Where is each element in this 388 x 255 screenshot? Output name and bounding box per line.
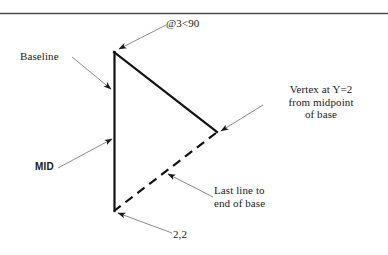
upper-edge <box>114 52 217 132</box>
diagram-canvas: @3<90 Baseline MID Vertex at Y=2 from mi… <box>0 0 388 255</box>
angle-spec-label: @3<90 <box>166 17 199 30</box>
start-point-leader <box>118 213 172 233</box>
last-line-note-leader <box>168 174 213 197</box>
vertex-note-line-1: Vertex at Y=2 <box>262 83 380 96</box>
mid-leader <box>58 139 112 168</box>
last-line-note-line-1: Last line to <box>214 184 324 197</box>
vertex-note: Vertex at Y=2 from midpoint of base <box>262 83 380 121</box>
mid-label: MID <box>35 161 54 174</box>
diagram-drawing <box>0 0 388 255</box>
vertex-note-leader <box>221 105 263 131</box>
baseline-label: Baseline <box>20 50 59 63</box>
vertex-note-line-3: of base <box>262 108 380 121</box>
start-point-label: 2,2 <box>173 228 187 241</box>
vertex-note-line-2: from midpoint <box>262 96 380 109</box>
baseline-leader <box>72 57 111 89</box>
last-line-note: Last line to end of base <box>214 184 324 209</box>
last-line-note-line-2: end of base <box>214 197 324 210</box>
angle-spec-leader <box>119 25 166 49</box>
closing-edge-dashed <box>114 133 216 211</box>
